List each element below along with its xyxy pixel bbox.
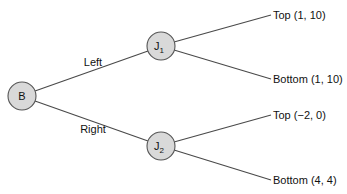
edge-j1-bottom <box>174 50 271 79</box>
edge-right <box>35 101 148 141</box>
node-j2-subscript: 2 <box>160 146 165 155</box>
node-b: B <box>8 82 36 110</box>
node-j1-subscript: 1 <box>160 46 165 55</box>
edge-j2-bottom <box>174 150 271 180</box>
outcome-j1-top: Top (1, 10) <box>273 9 326 21</box>
branch-label-right: Right <box>80 123 106 135</box>
node-j2: J2 <box>147 132 175 160</box>
node-b-label: B <box>18 90 25 102</box>
node-j1: J1 <box>147 32 175 60</box>
game-tree-diagram: Left Right B J1 J2 Top (1, 10) Bottom (1… <box>0 0 347 194</box>
edge-j1-top <box>174 15 271 42</box>
edge-j2-top <box>174 115 271 142</box>
outcome-j2-top: Top (−2, 0) <box>273 109 326 121</box>
branch-label-left: Left <box>84 56 102 68</box>
outcome-j1-bottom: Bottom (1, 10) <box>273 73 343 85</box>
outcome-j2-bottom: Bottom (4, 4) <box>273 174 337 186</box>
